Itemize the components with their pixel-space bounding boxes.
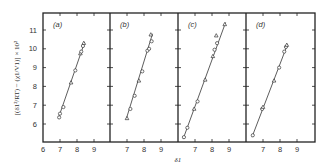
- x-tick-label: 8: [75, 145, 79, 154]
- data-point-triangle: [272, 79, 276, 82]
- chart-figure: 6789(a)789(b)789(c)789(d)67891011 [(δ1²/…: [0, 0, 330, 167]
- x-tick-label: 8: [142, 145, 146, 154]
- y-tick-label: 11: [29, 26, 37, 35]
- data-point-circle: [251, 134, 254, 137]
- data-point-circle: [58, 116, 61, 119]
- y-tick-label: 8: [33, 82, 37, 91]
- x-tick-label: 9: [227, 145, 231, 154]
- x-tick-label: 8: [210, 145, 214, 154]
- data-point-circle: [129, 107, 132, 110]
- data-point-circle: [196, 100, 199, 103]
- data-point-circle: [150, 40, 153, 43]
- data-point-triangle: [125, 116, 129, 119]
- y-axis-title: [(δ1²/RT) − (χ1/V1)] × 10²: [13, 41, 21, 115]
- panel-label: (d): [256, 20, 266, 29]
- y-tick-label: 9: [33, 63, 37, 72]
- data-point-triangle: [149, 33, 153, 36]
- data-point-circle: [216, 42, 219, 45]
- data-point-triangle: [214, 34, 218, 37]
- data-point-triangle: [192, 107, 196, 110]
- x-tick-label: 9: [295, 145, 299, 154]
- plot-frame: [43, 13, 315, 142]
- fit-line: [126, 34, 152, 120]
- data-point-triangle: [285, 43, 289, 46]
- data-point-circle: [182, 136, 185, 139]
- x-tick-label: 7: [58, 145, 62, 154]
- data-point-triangle: [223, 22, 227, 25]
- data-point-circle: [186, 126, 189, 129]
- x-tick-label: 7: [261, 145, 265, 154]
- data-layer: [58, 22, 289, 139]
- y-tick-label: 7: [33, 101, 37, 110]
- x-tick-label: 9: [159, 145, 163, 154]
- data-point-circle: [62, 105, 65, 108]
- data-point-triangle: [137, 79, 141, 82]
- x-tick-label: 7: [193, 145, 197, 154]
- data-point-circle: [148, 47, 151, 50]
- data-point-circle: [141, 70, 144, 73]
- data-point-triangle: [69, 81, 73, 84]
- data-point-circle: [213, 48, 216, 51]
- data-point-triangle: [82, 41, 86, 44]
- x-tick-label: 7: [125, 145, 129, 154]
- panel-label: (a): [53, 20, 63, 29]
- x-tick-label: 8: [278, 145, 282, 154]
- data-point-triangle: [203, 78, 207, 81]
- fit-line: [252, 44, 288, 137]
- data-point-circle: [80, 50, 83, 53]
- data-point-circle: [74, 69, 77, 72]
- y-tick-label: 6: [33, 120, 37, 129]
- x-axis-title: δ1: [175, 156, 182, 164]
- data-point-circle: [58, 112, 61, 115]
- x-tick-label: 9: [92, 145, 96, 154]
- data-point-circle: [81, 44, 84, 47]
- x-tick-label: 6: [41, 145, 45, 154]
- data-point-circle: [283, 50, 286, 53]
- y-tick-label: 10: [29, 44, 37, 53]
- panel-label: (c): [188, 20, 197, 29]
- data-point-circle: [133, 94, 136, 97]
- data-point-circle: [278, 66, 281, 69]
- panel-label: (b): [120, 20, 130, 29]
